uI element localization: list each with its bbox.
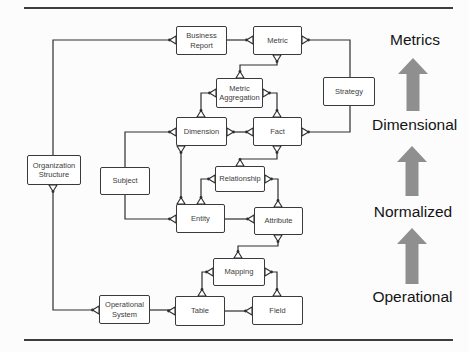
node-fact: Fact (253, 117, 302, 146)
crow-foot-marker (91, 306, 99, 314)
crow-foot-marker (273, 288, 281, 296)
node-metric-aggregation: Metric Aggregation (216, 78, 263, 108)
crow-foot-marker (168, 128, 176, 136)
crow-foot-marker (244, 307, 252, 315)
crow-foot-marker (273, 55, 281, 63)
edge-line (53, 40, 176, 155)
crow-foot-marker (263, 89, 271, 97)
node-label: Field (269, 306, 285, 315)
node-label: Metric Aggregation (219, 84, 260, 103)
crow-foot-marker (274, 199, 282, 207)
crow-foot-marker (205, 268, 213, 276)
node-label: Subject (112, 176, 137, 185)
level-label-metrics: Metrics (378, 31, 452, 49)
crow-foot-marker (227, 128, 235, 136)
node-business-report: Business Report (176, 26, 227, 55)
crow-foot-marker (234, 250, 242, 258)
edge-line (302, 106, 350, 132)
node-relationship: Relationship (215, 166, 265, 192)
node-field: Field (252, 296, 303, 325)
crow-foot-marker (167, 307, 175, 315)
crow-foot-marker (273, 109, 281, 117)
node-label: Relationship (219, 174, 260, 183)
node-label: Table (191, 306, 209, 315)
crow-foot-marker (208, 89, 216, 97)
edge-line (302, 40, 350, 77)
up-arrow-icon (397, 146, 427, 196)
node-label: Operational System (102, 300, 147, 319)
node-subject: Subject (100, 167, 150, 195)
node-organization-structure: Organization Structure (27, 155, 81, 185)
level-label-operational: Operational (372, 288, 453, 306)
crow-foot-marker (49, 185, 57, 193)
node-entity: Entity (176, 204, 225, 233)
node-dimension: Dimension (176, 117, 227, 146)
crow-foot-marker (197, 196, 205, 204)
crow-foot-marker (245, 128, 253, 136)
node-label: Organization Structure (30, 161, 78, 180)
crow-foot-marker (236, 70, 244, 78)
diagram-figure: Business Report Metric Metric Aggregatio… (0, 0, 469, 352)
crow-foot-marker (302, 128, 310, 136)
node-mapping: Mapping (213, 258, 265, 286)
node-attribute: Attribute (254, 207, 303, 235)
crow-foot-marker (245, 36, 253, 44)
up-arrow-icon (397, 228, 427, 284)
crow-foot-marker (197, 109, 205, 117)
node-operational-system: Operational System (99, 295, 150, 324)
crow-foot-marker (168, 215, 176, 223)
node-strategy: Strategy (323, 77, 375, 106)
node-label: Fact (270, 127, 285, 136)
crow-foot-marker (246, 215, 254, 223)
crow-foot-marker (168, 36, 176, 44)
node-label: Business Report (179, 31, 224, 50)
node-label: Strategy (335, 87, 363, 96)
crow-foot-marker (177, 146, 185, 154)
crow-foot-marker (302, 36, 310, 44)
crow-foot-marker (273, 146, 281, 154)
crow-foot-marker (274, 235, 282, 243)
node-label: Dimension (184, 127, 219, 136)
node-label: Attribute (265, 216, 293, 225)
crow-foot-marker (207, 175, 215, 183)
node-label: Mapping (225, 267, 254, 276)
level-label-normalized: Normalized (373, 203, 453, 221)
edge-line (240, 55, 277, 78)
edge-line (238, 235, 278, 258)
edge-line (53, 185, 99, 310)
up-arrow-icon (398, 58, 428, 111)
edge-line (125, 195, 176, 219)
crow-foot-marker (198, 288, 206, 296)
crow-foot-marker (265, 175, 273, 183)
crow-foot-marker (265, 268, 273, 276)
node-metric: Metric (253, 26, 302, 55)
node-label: Entity (191, 214, 210, 223)
edge-line (240, 146, 277, 166)
node-table: Table (175, 296, 225, 326)
level-label-dimensional: Dimensional (372, 116, 454, 134)
edge-line (125, 132, 176, 167)
node-label: Metric (267, 36, 287, 45)
crow-foot-marker (177, 196, 185, 204)
